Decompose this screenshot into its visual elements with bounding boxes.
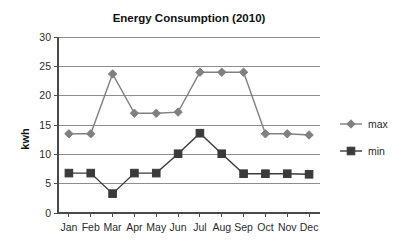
legend-label-min: min xyxy=(368,145,385,157)
data-point-min-aug xyxy=(218,150,226,158)
chart-title: Energy Consumption (2010) xyxy=(113,12,266,24)
y-tick-label: 0 xyxy=(45,207,51,219)
data-point-min-jan xyxy=(65,169,73,177)
data-point-min-jun xyxy=(174,150,182,158)
y-tick-label: 15 xyxy=(39,119,51,131)
y-tick-label: 30 xyxy=(39,31,51,43)
y-tick-label: 10 xyxy=(39,148,51,160)
x-tick-label-mar: Mar xyxy=(104,221,123,233)
data-point-min-mar xyxy=(109,190,117,198)
x-tick-label-sep: Sep xyxy=(234,221,253,233)
y-tick-label: 25 xyxy=(39,60,51,72)
x-tick-label-jun: Jun xyxy=(170,221,187,233)
y-tick-label: 5 xyxy=(45,177,51,189)
legend-marker-min xyxy=(347,147,355,155)
x-tick-label-oct: Oct xyxy=(257,221,273,233)
data-point-min-dec xyxy=(305,170,313,178)
x-tick-label-nov: Nov xyxy=(278,221,297,233)
x-tick-label-jan: Jan xyxy=(60,221,77,233)
y-tick-label: 20 xyxy=(39,89,51,101)
data-point-min-may xyxy=(152,169,160,177)
data-point-min-nov xyxy=(283,170,291,178)
x-tick-label-dec: Dec xyxy=(300,221,319,233)
data-point-min-oct xyxy=(262,170,270,178)
legend-label-max: max xyxy=(368,118,389,130)
x-tick-label-jul: Jul xyxy=(193,221,206,233)
x-tick-label-apr: Apr xyxy=(126,221,143,233)
chart-container: Energy Consumption (2010) kwh 0510152025… xyxy=(0,0,413,247)
x-tick-label-feb: Feb xyxy=(82,221,100,233)
data-point-min-jul xyxy=(196,129,204,137)
data-point-min-sep xyxy=(240,170,248,178)
energy-consumption-line-chart: Energy Consumption (2010) kwh 0510152025… xyxy=(0,0,413,247)
data-point-min-feb xyxy=(87,169,95,177)
x-tick-label-may: May xyxy=(146,221,167,233)
x-tick-label-aug: Aug xyxy=(212,221,231,233)
y-axis-label: kwh xyxy=(19,128,31,150)
data-point-min-apr xyxy=(131,169,139,177)
